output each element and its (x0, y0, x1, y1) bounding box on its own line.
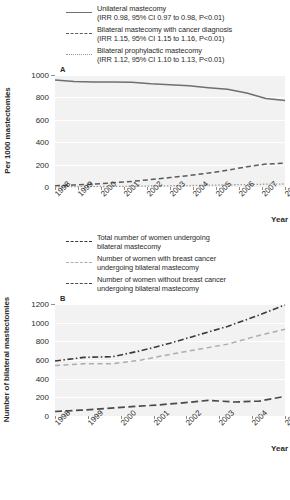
legend-line-solid-icon (66, 8, 92, 18)
series-line (55, 80, 285, 101)
y-axis-tick-label: 600 (0, 356, 49, 365)
legend-item-label-cont: undergoing bilateral mastecomy (97, 263, 216, 272)
series-line (55, 305, 285, 361)
legend-item-text: Unilateral mastecomy (IRR 0.98, 95% CI 0… (97, 4, 224, 22)
legend-item-text: Number of women with breast cancer under… (97, 254, 216, 272)
y-axis-tick-label: 600 (0, 115, 49, 124)
legend-item: Bilateral mastecomy with cancer diagnosi… (66, 25, 288, 43)
legend-item: Number of women without breast cancer un… (66, 275, 288, 293)
panel-letter-b: B (60, 294, 65, 303)
y-axis-tick-label: 200 (0, 393, 49, 402)
legend-item-label: Bilateral prophylactic mastecomy (97, 46, 202, 55)
legend-line-dashed-dark-icon (66, 279, 92, 289)
series-line (55, 329, 285, 365)
legend-panel-a: Unilateral mastecomy (IRR 0.98, 95% CI 0… (0, 0, 290, 64)
plot-area-a (55, 75, 285, 187)
legend-item-text: Bilateral prophylactic mastecomy (IRR 1.… (97, 46, 224, 64)
panel-b: Total number of women undergoing bilater… (0, 233, 290, 456)
legend-item: Unilateral mastecomy (IRR 0.98, 95% CI 0… (66, 4, 288, 22)
y-axis-tick-label: 800 (0, 337, 49, 346)
legend-line-dashed-light-icon (66, 258, 92, 268)
plot-area-b (55, 304, 285, 416)
y-axis-label-a: Per 1000 mastectomies (1, 63, 13, 197)
y-axis-tick-label: 1000 (0, 318, 49, 327)
y-axis-tick-label: 0 (0, 183, 49, 192)
legend-item-stats: (IRR 0.98, 95% CI 0.97 to 0.98, P<0.01) (97, 13, 224, 22)
chart-panel-a: Per 1000 mastectomies A Year 02004006008… (0, 67, 290, 227)
y-axis-tick-label: 1200 (0, 300, 49, 309)
y-axis-tick-label: 1000 (0, 71, 49, 80)
y-axis-tick-label: 800 (0, 93, 49, 102)
legend-item: Total number of women undergoing bilater… (66, 233, 288, 251)
y-axis-tick-label: 200 (0, 160, 49, 169)
panel-letter-a: A (60, 65, 65, 74)
y-axis-tick-mark (51, 75, 55, 76)
series-layer (55, 304, 285, 416)
legend-item-text: Number of women without breast cancer un… (97, 275, 226, 293)
x-axis-label-a: Year (271, 215, 288, 224)
series-line (55, 396, 285, 411)
legend-panel-b: Total number of women undergoing bilater… (0, 233, 290, 293)
legend-item-label: Number of women with breast cancer (97, 254, 216, 263)
y-axis-tick-label: 400 (0, 374, 49, 383)
panel-a: Unilateral mastecomy (IRR 0.98, 95% CI 0… (0, 0, 290, 227)
legend-item-stats: (IRR 1.15, 95% CI 1.15 to 1.16, P<0.01) (97, 34, 232, 43)
x-axis-label-b: Year (271, 444, 288, 453)
y-axis-tick-label: 400 (0, 138, 49, 147)
series-layer (55, 75, 285, 187)
legend-item: Bilateral prophylactic mastecomy (IRR 1.… (66, 46, 288, 64)
legend-item-label-cont: undergoing bilateral mastecomy (97, 284, 226, 293)
legend-item-label: Bilateral mastecomy with cancer diagnosi… (97, 25, 232, 34)
legend-item-text: Bilateral mastecomy with cancer diagnosi… (97, 25, 232, 43)
chart-panel-b: Number of bilateral mastectomies B Year … (0, 296, 290, 456)
legend-item-label: Unilateral mastecomy (97, 4, 166, 13)
legend-item-label: Total number of women undergoing (97, 233, 210, 242)
legend-item-stats: (IRR 1.12, 95% CI 1.10 to 1.13, P<0.01) (97, 55, 224, 64)
y-axis-tick-mark (51, 304, 55, 305)
y-axis-tick-label: 0 (0, 412, 49, 421)
legend-line-dashed-icon (66, 29, 92, 39)
legend-item-text: Total number of women undergoing bilater… (97, 233, 210, 251)
legend-line-dotted-icon (66, 50, 92, 60)
legend-line-dash-dot-icon (66, 237, 92, 247)
legend-item: Number of women with breast cancer under… (66, 254, 288, 272)
legend-item-label: Number of women without breast cancer (97, 275, 226, 284)
legend-item-label-cont: bilateral mastecomy (97, 242, 210, 251)
